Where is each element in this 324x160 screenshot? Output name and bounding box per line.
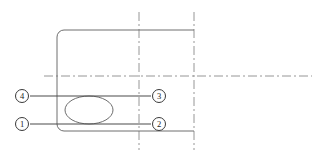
leader-line-group [30,96,151,124]
technical-drawing-canvas: 4 1 3 2 [0,0,324,160]
drawing-svg: 4 1 3 2 [0,0,324,160]
callout-label: 2 [157,119,161,129]
ellipse-feature-group [65,96,113,124]
callout-label: 1 [20,119,24,129]
callout-1[interactable]: 1 [16,118,29,131]
callout-4[interactable]: 4 [16,90,29,103]
center-ellipse [65,96,113,124]
callout-3[interactable]: 3 [153,90,166,103]
centerline-group [44,12,312,150]
rounded-rectangle-body [57,30,194,131]
callout-label: 3 [157,91,161,101]
callout-2[interactable]: 2 [153,118,166,131]
body-outline-group [57,30,194,131]
